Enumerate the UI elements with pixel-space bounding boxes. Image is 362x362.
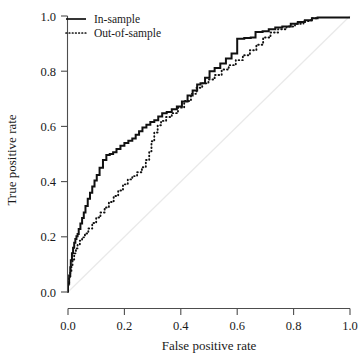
legend-label-in-sample: In-sample [94,13,140,26]
roc-plot-canvas: 0.00.20.40.60.81.0 0.00.20.40.60.81.0 Fa… [0,0,362,362]
x-tick-label: 0.0 [60,319,76,333]
y-axis-tick-labels: 0.00.20.40.60.81.0 [40,10,56,300]
y-axis-title: True positive rate [4,114,19,205]
x-axis-ticks [68,309,350,316]
x-tick-label: 0.4 [173,319,189,333]
y-tick-label: 0.6 [40,120,56,134]
x-axis-title: False positive rate [162,338,257,353]
legend-label-out-of-sample: Out-of-sample [94,27,161,40]
x-tick-label: 0.6 [229,319,245,333]
roc-chart-figure: 0.00.20.40.60.81.0 0.00.20.40.60.81.0 Fa… [0,0,362,362]
x-tick-label: 1.0 [342,319,358,333]
y-tick-label: 1.0 [40,10,56,24]
x-axis-tick-labels: 0.00.20.40.60.81.0 [60,319,358,333]
y-tick-label: 0.2 [40,230,56,244]
x-tick-label: 0.2 [117,319,133,333]
chart-legend: In-sample Out-of-sample [66,13,161,40]
x-tick-label: 0.8 [286,319,302,333]
y-tick-label: 0.0 [40,286,56,300]
y-axis-ticks [61,16,68,292]
y-tick-label: 0.4 [40,175,56,189]
y-tick-label: 0.8 [40,65,56,79]
